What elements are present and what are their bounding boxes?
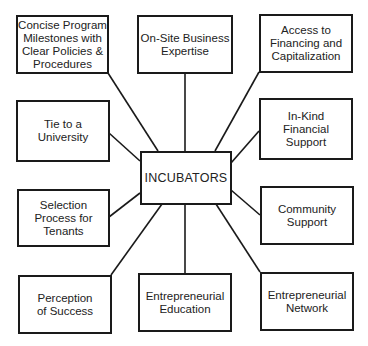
connector-perception — [111, 204, 162, 275]
connector-community — [231, 190, 260, 215]
node-selection-process: Selection Process for Tenants — [17, 189, 110, 247]
node-financing: Access to Financing and Capitalization — [259, 14, 353, 73]
connector-network — [216, 204, 260, 272]
node-university: Tie to a University — [16, 100, 110, 162]
connector-selection — [109, 193, 140, 217]
connector-university — [109, 133, 140, 161]
node-milestones: Concise Program Milestones with Clear Po… — [16, 15, 109, 74]
connector-inkind — [231, 131, 259, 163]
node-incubators-center: INCUBATORS — [140, 151, 232, 205]
node-entrepreneurial-network: Entrepreneurial Network — [260, 272, 354, 331]
node-inkind-support: In-Kind Financial Support — [259, 98, 353, 160]
node-onsite-expertise: On-Site Business Expertise — [137, 15, 233, 74]
node-entrepreneurial-education: Entrepreneurial Education — [138, 273, 232, 332]
node-perception-success: Perception of Success — [18, 275, 112, 334]
node-community-support: Community Support — [260, 186, 354, 245]
